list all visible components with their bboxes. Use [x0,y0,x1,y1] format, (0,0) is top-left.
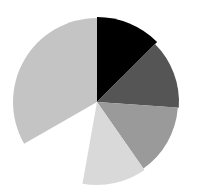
pie-slice-6 [13,18,97,144]
pie-chart [0,0,198,195]
